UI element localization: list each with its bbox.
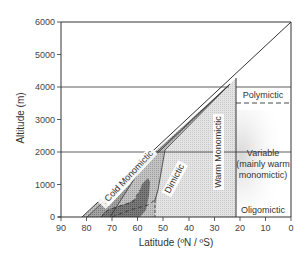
lake-mixing-diagram: 0 1000 2000 3000 4000 5000 6000 90 80 70… [0, 0, 306, 262]
x-axis-title: Latitude (ºN / ºS) [139, 237, 214, 248]
label-warm-monomictic-group: Warm Monomictic [213, 114, 224, 190]
y-axis-tick-labels: 0 1000 2000 3000 4000 5000 6000 [35, 17, 55, 222]
y-tick-3000: 3000 [35, 115, 55, 125]
x-tick-60: 60 [132, 223, 142, 233]
label-warm-monomictic: Warm Monomictic [213, 116, 223, 188]
label-variable-line1: Variable [247, 148, 279, 158]
x-tick-10: 10 [260, 223, 270, 233]
x-tick-0: 0 [288, 223, 293, 233]
label-polymictic: Polymictic [243, 90, 284, 100]
label-variable-line3: monomictic) [239, 170, 288, 180]
y-axis-title: Altitude (m) [15, 92, 26, 143]
y-tick-0: 0 [50, 212, 55, 222]
label-oligomictic: Oligomictic [241, 205, 286, 215]
x-axis-tick-labels: 90 80 70 60 50 40 30 20 10 0 [56, 223, 294, 233]
x-tick-90: 90 [56, 223, 66, 233]
x-tick-20: 20 [235, 223, 245, 233]
y-tick-2000: 2000 [35, 147, 55, 157]
y-tick-4000: 4000 [35, 82, 55, 92]
x-tick-70: 70 [107, 223, 117, 233]
x-tick-80: 80 [81, 223, 91, 233]
y-axis-ticks [57, 22, 61, 217]
x-tick-30: 30 [209, 223, 219, 233]
x-tick-40: 40 [184, 223, 194, 233]
x-tick-50: 50 [158, 223, 168, 233]
label-variable-line2: (mainly warm [236, 159, 290, 169]
y-tick-1000: 1000 [35, 180, 55, 190]
y-tick-5000: 5000 [35, 50, 55, 60]
y-tick-6000: 6000 [35, 17, 55, 27]
x-axis-ticks [61, 217, 291, 221]
